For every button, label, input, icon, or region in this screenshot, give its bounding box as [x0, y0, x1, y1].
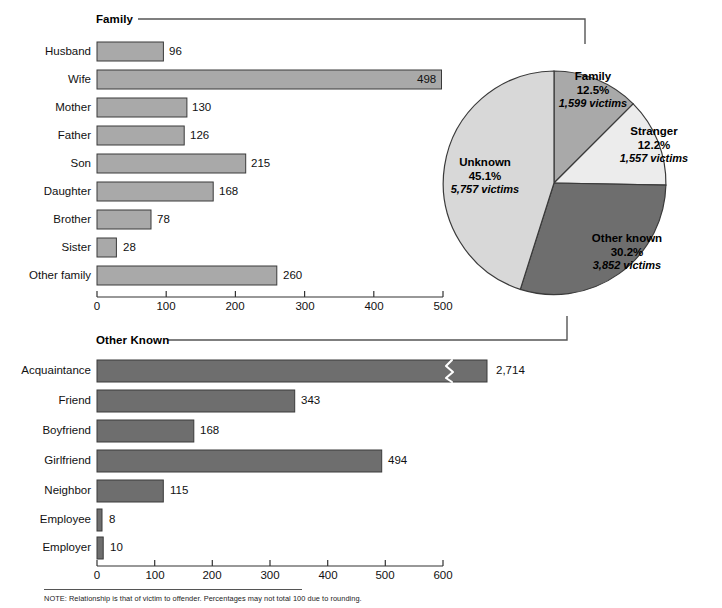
pie-label-stranger: Stranger 12.2% 1,557 victims	[594, 125, 714, 165]
value-label-daughter: 168	[219, 185, 238, 197]
bar-father	[97, 126, 184, 145]
family-connector-line	[138, 19, 585, 44]
pie-label-family: Family 12.5% 1,599 victims	[538, 70, 648, 110]
category-label-acquaintance: Acquaintance	[0, 364, 91, 376]
bar-husband	[97, 42, 163, 61]
value-label-brother: 78	[157, 213, 170, 225]
bar-neighbor	[97, 480, 163, 502]
bar-girlfriend	[97, 450, 382, 472]
category-label-son: Son	[0, 157, 91, 169]
pie-label-other-known: Other known 30.2% 3,852 victims	[562, 232, 692, 272]
pie-label-unknown: Unknown 45.1% 5,757 victims	[425, 156, 545, 196]
category-label-father: Father	[0, 129, 91, 141]
pie-label-stranger-victims: 1,557 victims	[594, 152, 714, 165]
pie-label-stranger-pct: 12.2%	[594, 139, 714, 153]
category-label-friend: Friend	[0, 394, 91, 406]
value-label-sister: 28	[123, 241, 136, 253]
value-label-friend: 343	[301, 394, 320, 406]
category-label-husband: Husband	[0, 45, 91, 57]
value-label-father: 126	[190, 129, 209, 141]
figure-canvas: Family Other Known Husband Wife Mother F…	[0, 0, 722, 608]
bar-other-family	[97, 266, 277, 285]
pie-label-other-known-victims: 3,852 victims	[562, 259, 692, 272]
value-label-boyfriend: 168	[200, 424, 219, 436]
bar-boyfriend	[97, 420, 194, 442]
bar-sister	[97, 238, 116, 257]
value-label-acquaintance: 2,714	[496, 364, 525, 376]
category-label-daughter: Daughter	[0, 185, 91, 197]
value-label-girlfriend: 494	[388, 454, 407, 466]
category-label-neighbor: Neighbor	[0, 484, 91, 496]
x-tick-other-100: 100	[135, 569, 175, 581]
bar-employer	[97, 537, 103, 559]
family-bar-chart	[97, 42, 443, 297]
value-label-employee: 8	[109, 513, 115, 525]
value-label-husband: 96	[169, 45, 182, 57]
pie-label-family-name: Family	[538, 70, 648, 84]
category-label-employer: Employer	[0, 541, 91, 553]
pie-label-other-known-pct: 30.2%	[562, 246, 692, 260]
pie-label-family-victims: 1,599 victims	[538, 97, 648, 110]
category-label-brother: Brother	[0, 213, 91, 225]
footnote-divider	[44, 589, 302, 590]
bar-wife	[97, 70, 442, 89]
bar-acquaintance	[97, 360, 487, 382]
x-tick-other-400: 400	[308, 569, 348, 581]
bar-employee	[97, 509, 102, 531]
pie-label-family-pct: 12.5%	[538, 84, 648, 98]
x-tick-family-100: 100	[146, 300, 186, 312]
other-known-section-title: Other Known	[96, 334, 169, 346]
value-label-wife: 498	[417, 73, 436, 85]
x-tick-other-200: 200	[192, 569, 232, 581]
bar-brother	[97, 210, 151, 229]
value-label-son: 215	[251, 157, 270, 169]
value-label-other-family: 260	[283, 269, 302, 281]
category-label-mother: Mother	[0, 101, 91, 113]
figure-note: NOTE: Relationship is that of victim to …	[44, 594, 362, 603]
pie-label-stranger-name: Stranger	[594, 125, 714, 139]
bar-mother	[97, 98, 187, 117]
family-section-title: Family	[96, 13, 133, 25]
category-label-employee: Employee	[0, 513, 91, 525]
x-tick-family-400: 400	[354, 300, 394, 312]
category-label-sister: Sister	[0, 241, 91, 253]
x-tick-family-500: 500	[423, 300, 463, 312]
value-label-mother: 130	[192, 101, 211, 113]
bar-daughter	[97, 182, 213, 201]
x-tick-other-500: 500	[365, 569, 405, 581]
other-known-connector-line	[168, 316, 567, 340]
category-label-wife: Wife	[0, 73, 91, 85]
other-known-bar-chart	[97, 360, 487, 566]
pie-label-unknown-victims: 5,757 victims	[425, 183, 545, 196]
pie-label-unknown-name: Unknown	[425, 156, 545, 170]
category-label-girlfriend: Girlfriend	[0, 454, 91, 466]
category-label-boyfriend: Boyfriend	[0, 424, 91, 436]
category-label-other-family: Other family	[0, 269, 91, 281]
x-tick-family-300: 300	[285, 300, 325, 312]
family-x-axis	[97, 291, 443, 297]
x-tick-family-200: 200	[215, 300, 255, 312]
x-tick-other-300: 300	[250, 569, 290, 581]
other-known-x-axis	[97, 560, 443, 566]
bar-son	[97, 154, 246, 173]
pie-label-unknown-pct: 45.1%	[425, 170, 545, 184]
x-tick-other-0: 0	[77, 569, 117, 581]
pie-label-other-known-name: Other known	[562, 232, 692, 246]
x-tick-other-600: 600	[423, 569, 463, 581]
value-label-employer: 10	[110, 541, 123, 553]
value-label-neighbor: 115	[170, 484, 188, 496]
x-tick-family-0: 0	[77, 300, 117, 312]
bar-friend	[97, 390, 295, 412]
